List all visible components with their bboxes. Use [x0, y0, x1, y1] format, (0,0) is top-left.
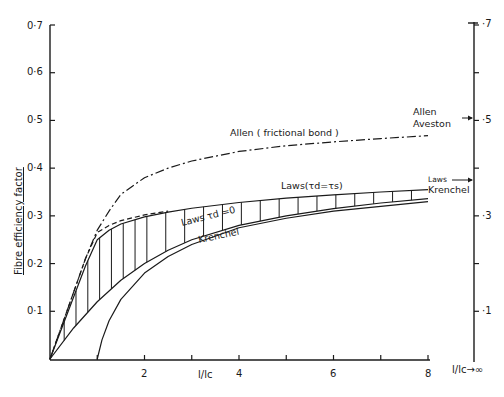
fibre-efficiency-chart: 0·1 0·2 0·3 0·4 0·5 0·6 0·7 Fibre effici…: [0, 0, 504, 397]
curve-laws-lower-bound: [50, 199, 428, 359]
y-tick-label: 0·2: [27, 258, 43, 269]
y-tick-labels: 0·1 0·2 0·3 0·4 0·5 0·6 0·7: [27, 20, 43, 316]
y-tick-label: 0·4: [27, 162, 43, 173]
right-tick-label: ·3: [482, 210, 492, 221]
y-tick-label: 0·5: [27, 114, 43, 125]
right-tick-label: ·5: [482, 114, 492, 125]
right-axis-title: l/lc→∞: [452, 364, 483, 375]
allen-right-label: Allen: [413, 106, 437, 117]
right-tick-labels: ·1 ·3 ·5 ·7: [482, 18, 492, 316]
laws-krenchel-arrowhead: [468, 178, 473, 183]
y-axis-title: Fibre efficiency factor: [13, 166, 24, 275]
laws-right-label: Laws: [428, 175, 447, 184]
axis-ticks: [50, 25, 479, 360]
laws-zero-label: Laws τd =0: [180, 204, 237, 228]
x-tick-label: 8: [425, 368, 431, 379]
laws-equal-label: Laws(τd=τs): [281, 180, 343, 191]
right-tick-label: ·7: [482, 18, 492, 29]
laws-hatch-region: [64, 190, 411, 340]
curve-laws-d-0: [50, 211, 168, 359]
x-tick-label: 2: [141, 368, 147, 379]
x-tick-labels: 2 4 6 8: [141, 368, 431, 379]
y-tick-label: 0·3: [27, 210, 43, 221]
y-tick-label: 0·6: [27, 66, 43, 77]
krenchel-right-label: Krenchel: [428, 184, 470, 195]
x-tick-label: 6: [330, 368, 336, 379]
y-tick-label: 0·7: [27, 20, 43, 31]
curves: [50, 136, 428, 359]
allen-aveston-arrowhead: [468, 116, 473, 121]
allen-frictional-label: Allen ( frictional bond ): [230, 127, 339, 138]
y-tick-label: 0·1: [27, 305, 43, 316]
x-tick-label: 4: [236, 368, 242, 379]
aveston-right-label: Aveston: [413, 118, 451, 129]
x-axis-title: l/lc: [198, 369, 212, 380]
right-tick-label: ·1: [482, 305, 492, 316]
